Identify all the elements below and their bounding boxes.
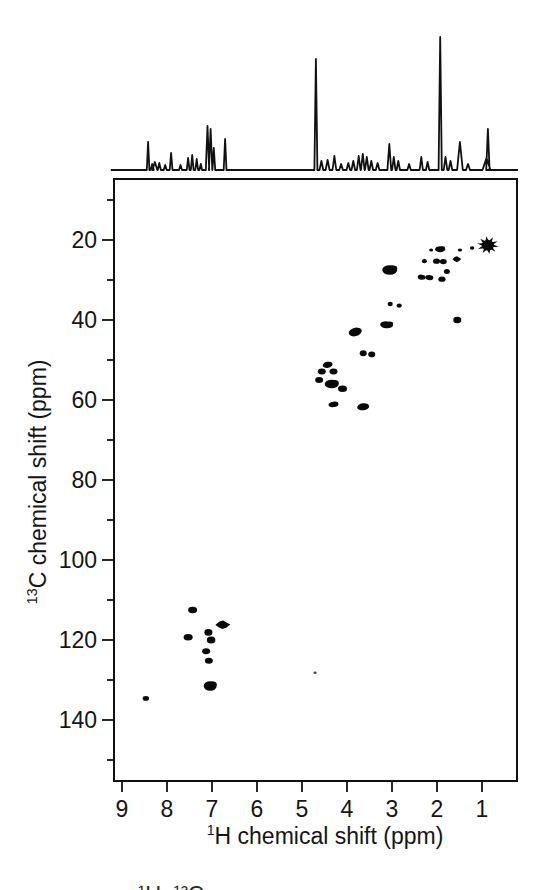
cross-peak — [388, 302, 393, 306]
x-tick-label: 9 — [100, 796, 144, 822]
cross-peak — [205, 658, 213, 664]
proton-1d-trace — [111, 37, 518, 170]
nmr-figure: 20406080100120140 987654321 13C chemical… — [0, 0, 546, 890]
cross-peak — [318, 369, 326, 375]
cross-peak — [331, 380, 339, 385]
cross-peak — [322, 361, 333, 369]
cross-peak — [470, 246, 474, 249]
x-tick-label: 7 — [190, 796, 234, 822]
cross-peak — [330, 369, 338, 375]
cross-peak — [453, 317, 461, 324]
cross-peak — [207, 637, 216, 644]
cross-peak — [438, 277, 445, 282]
cross-peak — [143, 696, 149, 701]
x-axis-title-text: H chemical shift (ppm) — [215, 823, 444, 849]
cross-peak — [458, 248, 462, 251]
cross-peak — [328, 401, 339, 408]
cross-peak — [202, 648, 210, 654]
y-axis-title-superscript: 13 — [24, 588, 40, 604]
cross-peak — [184, 634, 193, 640]
cross-peak — [368, 352, 375, 358]
cross-peak — [357, 402, 370, 411]
correlation-peaks-plot — [113, 178, 518, 782]
y-axis-title-text: C chemical shift (ppm) — [25, 360, 51, 589]
cross-peak — [433, 259, 440, 264]
x-tick-label: 4 — [325, 796, 369, 822]
cross-peak — [440, 246, 446, 250]
x-tick-label: 2 — [415, 796, 459, 822]
x-tick-label: 1 — [460, 796, 504, 822]
cross-peak — [422, 259, 427, 263]
x-tick-label: 5 — [280, 796, 324, 822]
cross-peak — [313, 672, 316, 674]
cross-peak — [417, 274, 426, 280]
cross-peak — [397, 303, 402, 307]
y-tick-label: 140 — [35, 707, 97, 733]
cross-peak — [440, 259, 447, 264]
cross-peak — [315, 377, 323, 383]
x-axis-title-superscript: 1 — [207, 822, 215, 838]
y-axis-title: 13C chemical shift (ppm) — [24, 322, 52, 642]
x-tick-label: 8 — [145, 796, 189, 822]
cross-peak — [354, 328, 361, 333]
cross-peak — [429, 248, 433, 251]
x-axis-title: 1H chemical shift (ppm) — [170, 822, 480, 850]
cross-peak — [210, 681, 217, 687]
cross-peak — [425, 275, 434, 281]
cross-peak — [204, 629, 212, 636]
x-tick-label: 6 — [235, 796, 279, 822]
cross-peak — [389, 265, 397, 271]
y-tick-label: 20 — [35, 227, 97, 253]
cross-peak — [444, 269, 450, 274]
cross-peak — [452, 256, 461, 262]
proton-1d-spectrum — [0, 0, 546, 178]
cross-peak — [482, 240, 494, 251]
cross-peak — [386, 322, 393, 326]
cross-peak — [188, 607, 197, 614]
cross-peak — [360, 350, 367, 356]
x-tick-label: 3 — [370, 796, 414, 822]
cross-peak — [215, 621, 230, 630]
caption-fragment: ¹H–¹³C — [138, 882, 478, 890]
cross-peak — [338, 386, 347, 392]
cross-peaks-group — [143, 236, 499, 700]
